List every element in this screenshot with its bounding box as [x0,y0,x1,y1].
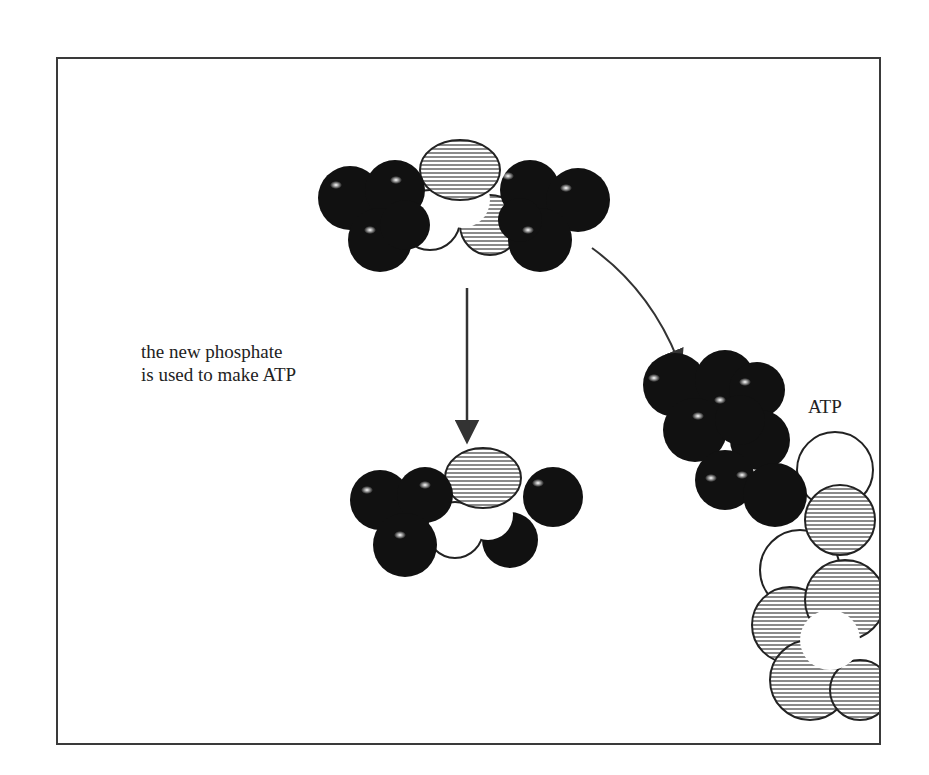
top-molecule [318,140,610,272]
bottom-molecule [350,448,583,577]
atp-label: ATP [808,396,842,418]
caption: the new phosphate is used to make ATP [141,340,296,386]
diagram-canvas [0,0,929,775]
caption-line-1: the new phosphate [141,340,296,363]
curved-arrow [592,248,678,360]
caption-line-2: is used to make ATP [141,363,296,386]
atp-molecule [643,350,890,720]
